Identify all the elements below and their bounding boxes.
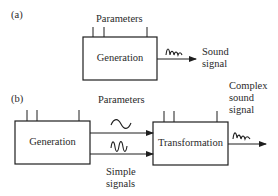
generation-label-b: Generation (15, 136, 90, 147)
complex-sound-signal-label-1: Complex (229, 80, 268, 91)
panel-a-tag: (a) (11, 9, 23, 20)
parameters-label-a: Parameters (96, 13, 143, 24)
transformation-label: Transformation (153, 137, 228, 148)
waveform-icon (166, 49, 182, 55)
parameters-label-b: Parameters (98, 94, 145, 105)
simple-signals-label-2: signals (106, 178, 135, 189)
fast-wave-icon (111, 142, 127, 152)
sine-wave-icon (111, 120, 131, 129)
panel-b-tag: (b) (11, 93, 23, 104)
complex-waveform-icon (233, 133, 250, 139)
generation-label-a: Generation (83, 52, 157, 63)
complex-sound-signal-label-2: sound (229, 92, 254, 103)
sound-signal-label-1: Sound (202, 46, 229, 57)
simple-signals-label-1: Simple (106, 166, 136, 177)
complex-sound-signal-label-3: signal (229, 104, 254, 115)
sound-signal-label-2: signal (202, 58, 227, 69)
